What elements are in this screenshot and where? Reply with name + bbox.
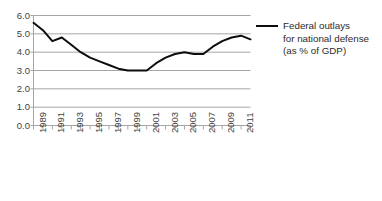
chart-legend: Federal outlays for national defense (as… [256, 20, 369, 58]
x-tick-label: 2011 [245, 112, 255, 132]
x-tick-label: 1995 [94, 111, 104, 132]
x-tick-label: 1997 [113, 111, 123, 132]
legend-line-swatch [256, 20, 278, 31]
x-tick-label: 1989 [38, 111, 48, 132]
legend-label: Federal outlays for national defense (as… [283, 20, 369, 58]
x-tick-label: 2005 [188, 111, 198, 132]
x-tick-label: 1991 [56, 111, 66, 132]
x-tick-label: 2003 [170, 111, 180, 132]
x-tick-label: 1999 [132, 111, 142, 132]
x-tick-label: 2009 [226, 111, 236, 132]
line-chart: 0.01.02.03.04.05.06.0 198919911993199519… [0, 0, 382, 201]
x-tick-label: 1993 [75, 111, 85, 132]
x-tick-label: 2007 [207, 111, 217, 132]
x-tick-label: 2001 [151, 111, 161, 132]
